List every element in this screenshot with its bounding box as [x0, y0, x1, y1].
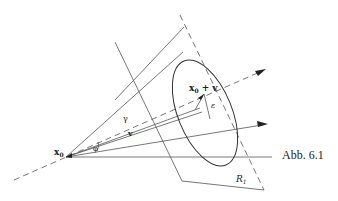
- ellipse: [159, 51, 251, 175]
- arrowhead-icon: [255, 69, 266, 76]
- cone-line-1: [66, 108, 200, 157]
- cone-upper-line: [66, 52, 183, 157]
- arrowhead-icon: [257, 121, 268, 127]
- figure-caption: Abb. 6.1: [282, 148, 324, 163]
- plane-bottom-edge: [182, 181, 264, 190]
- phi-label: φ: [93, 145, 98, 153]
- epsilon-line: [204, 94, 210, 119]
- origin-label: x0: [54, 147, 64, 158]
- region-label: R1: [235, 174, 247, 185]
- gamma-label: γ: [123, 114, 128, 123]
- plane-left-edge: [115, 42, 182, 181]
- cone-line-2: [66, 112, 202, 157]
- point-label: x0 + v: [189, 83, 218, 94]
- plane-right-edge: [180, 15, 264, 190]
- dashed-axis-line: [14, 71, 262, 180]
- cone-diagram: x0 x0 + v v γ φ ε R1: [0, 0, 338, 201]
- vector-label: v: [127, 128, 133, 138]
- epsilon-label: ε: [211, 101, 215, 110]
